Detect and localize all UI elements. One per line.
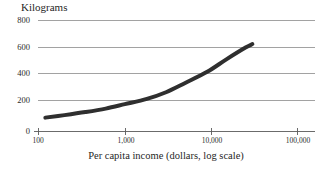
y-tick-label-0: 0 bbox=[4, 127, 30, 136]
y-tick-label-800: 800 bbox=[4, 16, 30, 25]
x-tick-label-100000: 100,000 bbox=[286, 137, 310, 145]
y-tick-label-600: 600 bbox=[4, 43, 30, 52]
x-axis-title: Per capita income (dollars, log scale) bbox=[0, 150, 332, 162]
chart-plot-area bbox=[0, 0, 332, 171]
x-tick-label-1000: 1,000 bbox=[118, 137, 135, 145]
x-tick-label-100: 100 bbox=[32, 137, 43, 145]
data-series-line bbox=[45, 44, 252, 118]
y-tick-label-200: 200 bbox=[4, 96, 30, 105]
y-tick-label-400: 400 bbox=[4, 69, 30, 78]
x-tick-label-10000: 10,000 bbox=[202, 137, 223, 145]
chart-figure: Kilograms 800 600 400 200 0 100 1,000 10… bbox=[0, 0, 332, 171]
